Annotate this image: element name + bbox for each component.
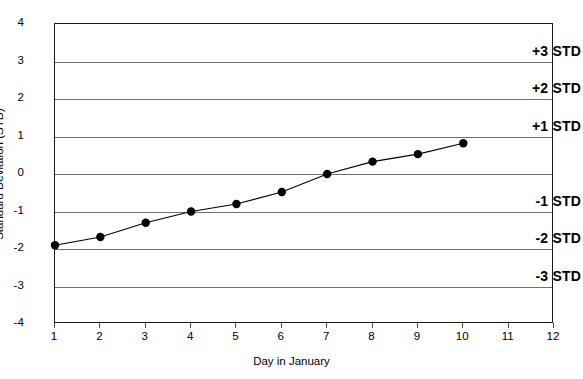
data-point-marker	[459, 139, 467, 147]
x-axis-tick	[235, 323, 236, 328]
x-axis-tick	[417, 323, 418, 328]
std-annotation-label: +3 STD	[532, 44, 581, 58]
x-axis-tick	[190, 323, 191, 328]
x-axis-title: Day in January	[0, 355, 583, 367]
std-annotation-label: +1 STD	[532, 119, 581, 133]
data-point-marker	[414, 150, 422, 158]
x-axis-tick-label: 4	[170, 330, 210, 342]
x-axis-tick	[372, 323, 373, 328]
y-axis-tick-label: -4	[0, 317, 24, 329]
std-annotation-label: -3 STD	[535, 269, 581, 283]
x-axis-tick	[508, 323, 509, 328]
x-axis-tick	[326, 323, 327, 328]
std-annotation-label: -2 STD	[535, 231, 581, 245]
x-axis-tick	[281, 323, 282, 328]
chart-figure: Standard Deviation (STD) 43210-1-2-3-4 +…	[0, 0, 583, 379]
y-axis-tick-label: -3	[0, 280, 24, 292]
data-point-marker	[51, 241, 59, 249]
data-point-marker	[96, 233, 104, 241]
x-axis-tick-label: 12	[533, 330, 573, 342]
data-series-line	[55, 24, 554, 324]
x-axis-tick-label: 3	[125, 330, 165, 342]
y-axis-tick-label: 3	[0, 55, 24, 67]
x-axis-tick	[99, 323, 100, 328]
x-axis-tick	[462, 323, 463, 328]
x-axis-tick-label: 2	[79, 330, 119, 342]
x-axis-tick-label: 5	[215, 330, 255, 342]
y-axis-tick-label: 2	[0, 92, 24, 104]
data-point-marker	[368, 157, 376, 165]
std-annotation-label: -1 STD	[535, 194, 581, 208]
std-annotation-label: +2 STD	[532, 81, 581, 95]
data-point-marker	[323, 170, 331, 178]
x-axis-tick-label: 1	[34, 330, 74, 342]
x-axis-tick-label: 11	[488, 330, 528, 342]
data-point-marker	[278, 188, 286, 196]
x-axis-tick-label: 6	[261, 330, 301, 342]
x-axis-tick-label: 9	[397, 330, 437, 342]
series-line	[55, 143, 463, 245]
x-axis-tick-label: 10	[442, 330, 482, 342]
plot-area	[54, 23, 553, 323]
data-point-marker	[232, 200, 240, 208]
x-axis-tick-label: 8	[352, 330, 392, 342]
y-axis-tick-label: 4	[0, 17, 24, 29]
x-axis-tick	[54, 323, 55, 328]
y-axis-tick-label: -1	[0, 205, 24, 217]
x-axis-tick-label: 7	[306, 330, 346, 342]
x-axis-tick	[553, 323, 554, 328]
data-point-marker	[142, 219, 150, 227]
y-axis-tick-label: 0	[0, 167, 24, 179]
y-axis-tick-label: -2	[0, 242, 24, 254]
y-axis-tick-label: 1	[0, 130, 24, 142]
x-axis-tick	[145, 323, 146, 328]
data-point-marker	[187, 207, 195, 215]
